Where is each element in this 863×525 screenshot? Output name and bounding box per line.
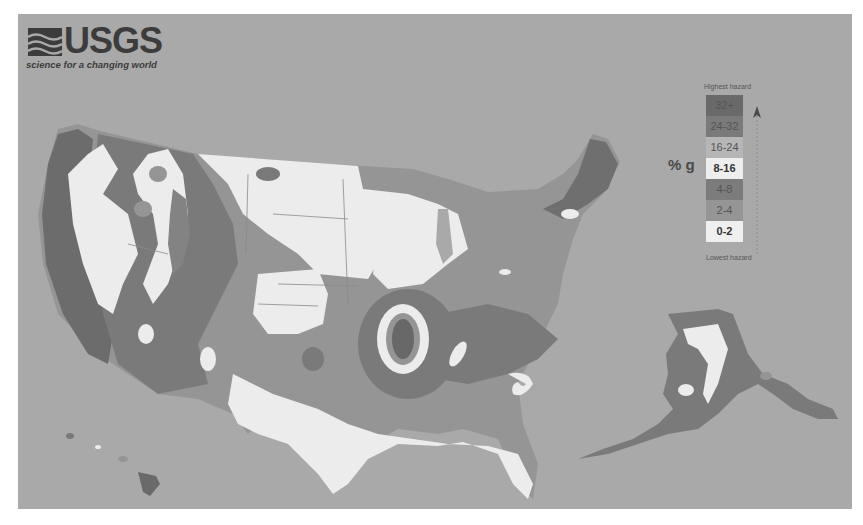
legend-class-32-plus: 32+ bbox=[706, 95, 743, 116]
new-england-dark bbox=[543, 139, 618, 219]
hazard-map-frame: USGS science for a changing world Highes… bbox=[18, 14, 852, 509]
legend-bottom-label: Lowest hazard bbox=[706, 254, 752, 261]
alaska-spot bbox=[760, 372, 772, 380]
oh-light bbox=[499, 269, 511, 275]
ok-dark-spot bbox=[302, 347, 324, 371]
legend-class-0-2: 0-2 bbox=[706, 221, 743, 242]
legend-class-8-16: 8-16 bbox=[706, 158, 743, 179]
west-spot-2 bbox=[134, 201, 152, 217]
usgs-tagline: science for a changing world bbox=[26, 59, 157, 70]
legend-class-4-8: 4-8 bbox=[706, 179, 743, 200]
legend-class-24-32: 24-32 bbox=[706, 116, 743, 137]
legend-top-label: Highest hazard bbox=[704, 83, 751, 90]
ny-light bbox=[561, 209, 579, 219]
mt-dark-spot bbox=[256, 167, 280, 181]
nv-light bbox=[138, 324, 154, 344]
big-island bbox=[138, 472, 160, 496]
west-spot-1 bbox=[149, 166, 167, 182]
hawaii bbox=[66, 433, 160, 496]
legend-class-2-4: 2-4 bbox=[706, 200, 743, 221]
hazard-direction-arrow-icon bbox=[751, 106, 763, 256]
usgs-wordmark: USGS bbox=[64, 20, 162, 62]
alaska-light-2 bbox=[678, 384, 694, 396]
alaska bbox=[578, 309, 838, 459]
legend-scale: 32+ 24-32 16-24 8-16 4-8 2-4 0-2 bbox=[706, 95, 743, 242]
az-light bbox=[200, 347, 216, 371]
usgs-logo[interactable]: USGS science for a changing world bbox=[24, 26, 184, 76]
central-light bbox=[253, 269, 328, 334]
nmsz-core bbox=[392, 319, 414, 359]
legend-unit-label: % g bbox=[668, 156, 695, 173]
usgs-wave-icon bbox=[28, 28, 62, 56]
legend-class-16-24: 16-24 bbox=[706, 137, 743, 158]
